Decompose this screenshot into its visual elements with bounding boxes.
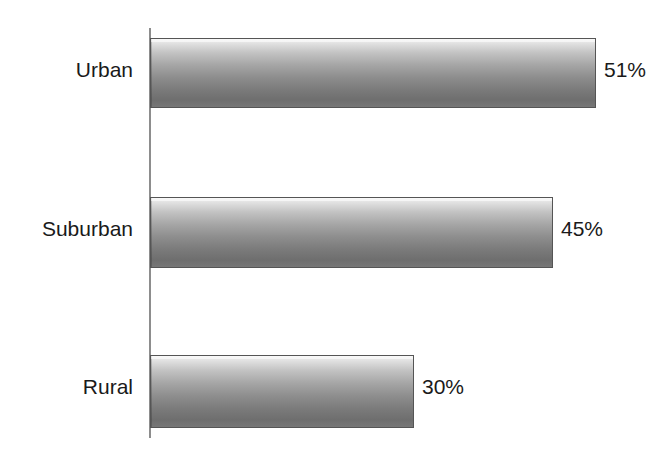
value-label-rural: 30%	[422, 375, 464, 399]
bar-suburban[interactable]	[150, 197, 553, 268]
category-label-urban: Urban	[0, 58, 133, 82]
bar-row: Rural 30%	[0, 355, 670, 428]
category-label-suburban: Suburban	[0, 217, 133, 241]
bar-chart: Urban 51% Suburban 45% Rural 30%	[0, 0, 670, 469]
bar-highlight	[151, 198, 552, 201]
value-label-urban: 51%	[604, 58, 646, 82]
value-label-suburban: 45%	[561, 217, 603, 241]
plot-area: Urban 51% Suburban 45% Rural 30%	[0, 0, 670, 469]
bar-rural[interactable]	[150, 355, 414, 428]
category-label-rural: Rural	[0, 375, 133, 399]
bar-row: Urban 51%	[0, 38, 670, 108]
bar-row: Suburban 45%	[0, 197, 670, 268]
bar-urban[interactable]	[150, 38, 596, 108]
bar-highlight	[151, 356, 413, 359]
bar-highlight	[151, 39, 595, 42]
